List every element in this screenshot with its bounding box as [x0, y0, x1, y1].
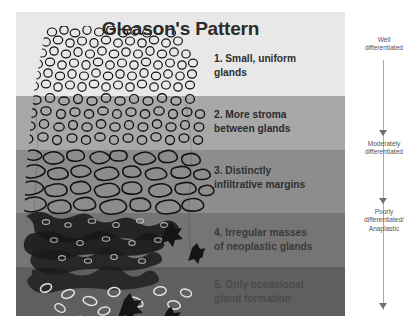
- scale-label-poorly-differentiated: Poorly differentiated/ Anaplastic: [350, 208, 418, 233]
- scale-label-well-differentiated: Well differentiated: [350, 36, 418, 53]
- differentiation-scale: Well differentiated Moderately different…: [350, 12, 418, 316]
- scale-arrow-down-icon-2: [379, 198, 387, 204]
- scale-arrow-down-icon-1: [379, 130, 387, 136]
- scale-arrow-down-icon-3: [379, 303, 387, 309]
- diagram-panel: Gleason's Pattern 1. Small, uniform glan…: [16, 12, 345, 316]
- pattern-label-1: 1. Small, uniform glands: [214, 52, 342, 79]
- page-title: Gleason's Pattern: [16, 18, 345, 40]
- pattern-label-3: 3. Distinctly infiltrative margins: [214, 164, 342, 191]
- scale-axis-line: [383, 60, 384, 310]
- scale-label-moderately-differentiated: Moderately differentiated: [350, 140, 418, 157]
- pattern-label-5: 5. Only occasional gland formation: [214, 278, 342, 305]
- gleason-pattern-figure: Gleason's Pattern 1. Small, uniform glan…: [0, 0, 418, 326]
- pattern-label-2: 2. More stroma between glands: [214, 108, 342, 135]
- pattern-label-4: 4. Irregular masses of neoplastic glands: [214, 226, 342, 253]
